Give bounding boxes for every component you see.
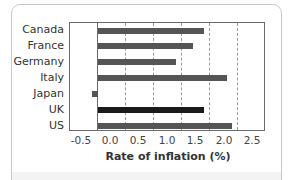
bar-canada [98,28,204,34]
bar-us [98,123,232,129]
tick-label: 1.0 [159,134,176,146]
category-label-france: France [27,39,64,52]
category-label-germany: Germany [13,55,64,68]
category-label-uk: UK [49,103,64,116]
x-axis-title: Rate of inflation (%) [105,150,230,163]
card-footer-band [12,172,281,180]
tick-label: 1.5 [187,134,204,146]
gridline [237,23,238,130]
bar-italy [98,75,227,81]
category-label-canada: Canada [22,23,64,36]
tick-label: 2.0 [216,134,233,146]
tick-label: 2.5 [244,134,261,146]
category-label-italy: Italy [40,71,64,84]
plot-area [69,22,265,131]
tick-label: 0.0 [102,134,119,146]
bar-japan [92,91,98,97]
tick-label: 0.5 [130,134,147,146]
category-label-us: US [49,119,64,132]
bar-germany [98,59,176,65]
tick-label: -0.5 [71,134,92,146]
bar-france [98,43,193,49]
category-label-japan: Japan [33,87,64,100]
bar-uk [98,107,204,113]
